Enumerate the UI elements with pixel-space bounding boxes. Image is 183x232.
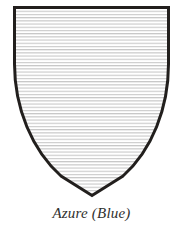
shield-field-azure-hatching (0, 0, 183, 200)
figure-caption: Azure (Blue) (0, 203, 183, 223)
shield-illustration (0, 0, 183, 200)
heraldic-tincture-figure: Azure (Blue) (0, 0, 183, 232)
shield-svg (0, 0, 183, 200)
